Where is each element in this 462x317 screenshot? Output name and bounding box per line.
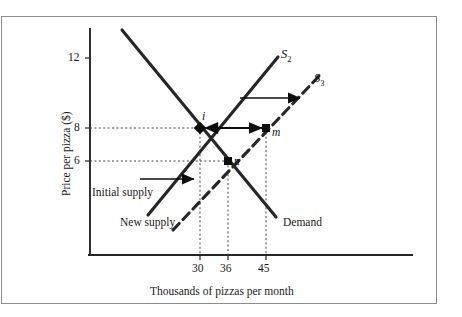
point-label-i: i [202,110,205,122]
point-label-n: n [234,155,240,167]
curve-label-new-supply: New supply [120,216,175,228]
y-tick-label-8: 8 [74,121,80,133]
curve-label-s2: S2 [281,47,292,64]
x-tick-label-30: 30 [192,262,204,274]
curve-label-demand: Demand [283,216,322,228]
y-tick-label-6: 6 [74,154,80,166]
curve-label-s2-subscript: 2 [287,54,291,64]
point-marker-m [262,124,270,132]
y-tick-label-12: 12 [68,51,80,63]
x-tick-label-45: 45 [258,262,270,274]
y-axis-title: Price per pizza ($) [60,111,72,196]
point-label-m: m [272,126,280,138]
initial-supply-curve-s2 [148,57,278,215]
x-tick-label-36: 36 [220,262,232,274]
point-marker-n [224,157,232,165]
curve-label-initial-supply: Initial supply [92,186,153,198]
figure-container: 12 8 6 30 36 45 Price per pizza ($) Thou… [0,0,462,317]
x-axis-title: Thousands of pizzas per month [150,285,294,297]
curve-label-s3-subscript: 3 [320,78,324,88]
curve-label-s3: S3 [314,71,325,88]
